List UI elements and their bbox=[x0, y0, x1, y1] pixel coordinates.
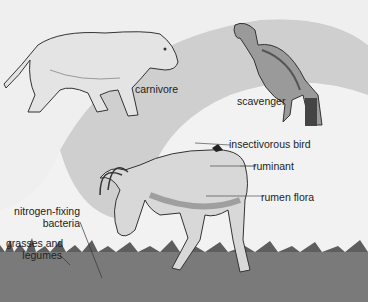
label-carnivore: carnivore bbox=[135, 84, 178, 95]
label-rumen-flora: rumen flora bbox=[261, 192, 314, 203]
food-web-diagram: carnivore scavenger insectivorous bird r… bbox=[0, 0, 368, 302]
label-grasses-line1: grasses and bbox=[6, 238, 63, 249]
label-grasses-line2: legumes bbox=[6, 250, 62, 261]
label-ruminant: ruminant bbox=[253, 161, 294, 172]
label-scavenger: scavenger bbox=[237, 96, 285, 107]
label-nitrogen-fixing-line2: bacteria bbox=[10, 218, 80, 229]
label-insectivorous-bird: insectivorous bird bbox=[229, 139, 311, 150]
label-nitrogen-fixing-line1: nitrogen-fixing bbox=[10, 206, 80, 217]
